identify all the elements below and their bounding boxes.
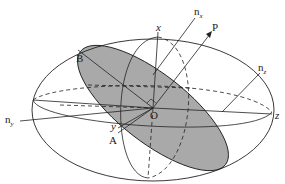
label-nz: nz [258,62,266,76]
label-P: P [212,22,218,33]
nz-line [222,73,260,112]
label-x: x [156,22,161,33]
label-O: O [150,110,158,121]
label-ny: ny [5,114,14,128]
label-B: B [76,53,83,64]
label-nx: nx [194,6,203,20]
label-z: z [275,110,279,121]
index-ellipsoid-diagram [0,0,285,184]
label-y: y [111,121,116,132]
label-A: A [109,135,117,146]
